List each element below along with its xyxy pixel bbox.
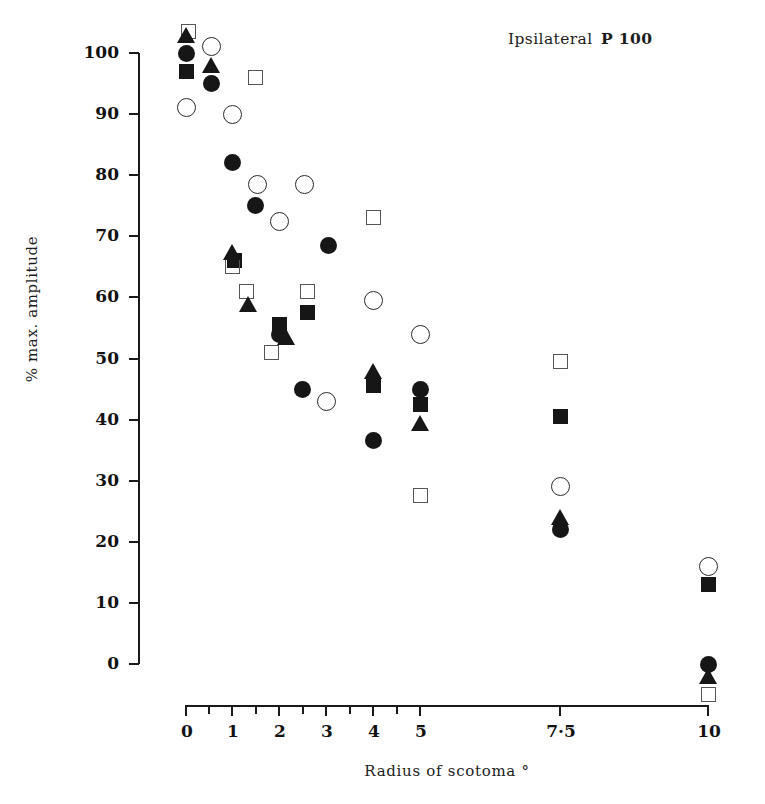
data-point-filled-circle — [412, 381, 429, 398]
x-axis-tick — [372, 705, 374, 716]
y-axis-tick — [129, 663, 139, 665]
y-axis-tick — [129, 419, 139, 421]
data-point-filled-circle — [365, 432, 382, 449]
y-axis-tick — [129, 52, 139, 54]
y-axis-tick-label: 90 — [67, 105, 119, 122]
x-axis-tick-label: 7·5 — [531, 721, 591, 741]
y-axis-tick-label: 100 — [67, 44, 119, 61]
data-point-filled-circle — [294, 381, 311, 398]
y-axis-tick-label: 60 — [67, 288, 119, 305]
x-axis-minor-tick — [208, 705, 210, 714]
x-axis-tick-label: 5 — [391, 721, 451, 741]
y-axis-tick — [129, 358, 139, 360]
y-axis-tick — [129, 235, 139, 237]
x-axis-line — [186, 705, 708, 707]
data-point-open-circle — [551, 477, 570, 496]
y-axis-tick-label: 20 — [67, 533, 119, 550]
data-point-open-square — [553, 354, 568, 369]
data-point-open-circle — [295, 175, 314, 194]
data-point-filled-circle — [203, 75, 220, 92]
data-point-open-square — [413, 488, 428, 503]
data-point-filled-circle — [320, 237, 337, 254]
data-point-filled-square — [701, 577, 716, 592]
y-axis-tick-label: 70 — [67, 227, 119, 244]
data-point-open-circle — [270, 212, 289, 231]
x-axis-minor-tick — [396, 705, 398, 714]
data-point-open-circle — [177, 98, 196, 117]
x-axis-tick — [185, 705, 187, 716]
y-axis-tick — [129, 480, 139, 482]
y-axis-tick — [129, 602, 139, 604]
plot-area: 1009080706050403020100 0123457·510 % max… — [0, 0, 765, 804]
y-axis-tick — [129, 113, 139, 115]
data-point-filled-triangle — [239, 296, 257, 312]
y-axis-tick — [129, 174, 139, 176]
y-axis-tick-label: 40 — [67, 411, 119, 428]
x-axis-tick — [419, 705, 421, 716]
x-axis-tick — [707, 705, 709, 716]
y-axis-label: % max. amplitude — [23, 229, 41, 389]
data-point-open-circle — [202, 37, 221, 56]
data-point-filled-square — [366, 378, 381, 393]
data-point-filled-square — [413, 397, 428, 412]
data-point-filled-triangle — [202, 57, 220, 73]
data-point-open-square — [225, 259, 240, 274]
data-point-filled-triangle — [699, 668, 717, 684]
x-axis-tick — [278, 705, 280, 716]
y-axis-tick-label: 10 — [67, 594, 119, 611]
y-axis-tick — [129, 541, 139, 543]
data-point-filled-triangle — [364, 363, 382, 379]
x-axis-minor-tick — [302, 705, 304, 714]
data-point-filled-square — [300, 305, 315, 320]
y-axis-tick — [129, 296, 139, 298]
data-point-filled-circle — [178, 45, 195, 62]
data-point-open-square — [264, 345, 279, 360]
scatter-plot-figure: Ipsilateral P 100 1009080706050403020100… — [0, 0, 765, 804]
y-axis-tick-label: 50 — [67, 350, 119, 367]
data-point-open-square — [366, 210, 381, 225]
data-point-open-circle — [317, 392, 336, 411]
x-axis-tick — [325, 705, 327, 716]
data-point-filled-triangle — [177, 27, 195, 43]
data-point-filled-square — [179, 64, 194, 79]
x-axis-tick — [559, 705, 561, 716]
data-point-open-circle — [223, 105, 242, 124]
y-axis-tick-label: 80 — [67, 166, 119, 183]
x-axis-label: Radius of scotoma ° — [186, 762, 708, 780]
data-point-open-circle — [364, 291, 383, 310]
data-point-open-square — [248, 70, 263, 85]
y-axis-tick-label: 30 — [67, 472, 119, 489]
x-axis-minor-tick — [349, 705, 351, 714]
data-point-filled-circle — [224, 154, 241, 171]
data-point-open-square — [300, 284, 315, 299]
data-point-filled-square — [553, 409, 568, 424]
y-axis-tick-label: 0 — [67, 655, 119, 672]
x-axis-minor-tick — [255, 705, 257, 714]
x-axis-tick-label: 10 — [679, 721, 739, 741]
data-point-open-circle — [699, 557, 718, 576]
data-point-filled-triangle — [277, 329, 295, 345]
x-axis-tick — [231, 705, 233, 716]
data-point-open-circle — [248, 175, 267, 194]
data-point-filled-triangle — [411, 415, 429, 431]
data-point-open-square — [701, 687, 716, 702]
data-point-open-circle — [411, 325, 430, 344]
data-point-filled-circle — [247, 197, 264, 214]
data-point-filled-triangle — [223, 244, 241, 260]
data-point-filled-triangle — [551, 509, 569, 525]
